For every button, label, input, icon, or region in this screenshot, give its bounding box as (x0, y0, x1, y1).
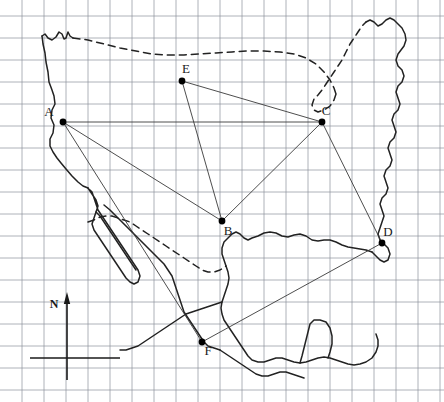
map-point-label-f: F (204, 343, 211, 358)
compass-north-label: N (50, 297, 59, 311)
map-point-label-e: E (182, 61, 190, 76)
map-canvas: ABCDEF N (0, 0, 444, 402)
map-point-e[interactable] (179, 78, 186, 85)
map-point-label-b: B (224, 223, 233, 238)
map-point-a[interactable] (60, 119, 67, 126)
map-point-label-c: C (322, 103, 331, 118)
map-point-label-d: D (383, 224, 392, 239)
map-point-label-a: A (44, 104, 54, 119)
map-figure: ABCDEF N (0, 0, 444, 402)
map-point-c[interactable] (319, 119, 326, 126)
map-point-d[interactable] (379, 240, 386, 247)
